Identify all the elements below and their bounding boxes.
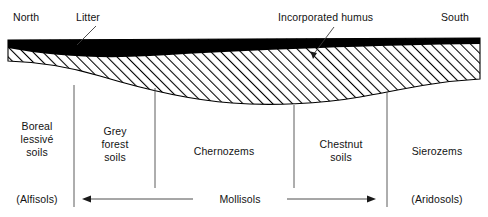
zone-label-sierozems: Sierozems: [412, 145, 463, 158]
soil-cross-section-svg: [0, 0, 488, 217]
mollisols-left-arrow: [82, 196, 193, 203]
zone-label-chernozems: Chernozems: [194, 145, 255, 158]
zone-label-grey-forest-soils: Grey forest soils: [102, 125, 129, 164]
orientation-label-south: South: [441, 11, 469, 24]
soil-profile-figure: North South Litter Incorporated humus Bo…: [0, 0, 488, 217]
soil-order-label-mollisols: Mollisols: [219, 193, 260, 206]
callout-label-incorporated-humus: Incorporated humus: [278, 11, 373, 24]
callout-label-litter: Litter: [76, 11, 100, 24]
mollisols-right-arrow: [287, 196, 376, 203]
zone-label-boreal-lessive-soils: Boreal lessivé soils: [21, 120, 54, 159]
soil-order-label-aridosols: (Aridosols): [411, 193, 462, 206]
zone-label-chestnut-soils: Chestnut soils: [320, 138, 363, 164]
soil-order-label-alfisols: (Alfisols): [16, 193, 57, 206]
orientation-label-north: North: [13, 11, 39, 24]
